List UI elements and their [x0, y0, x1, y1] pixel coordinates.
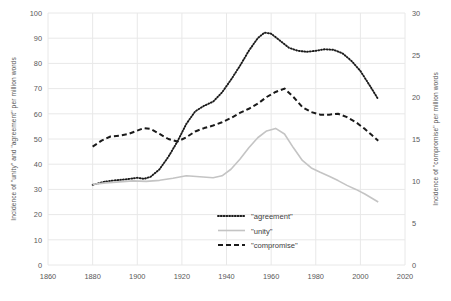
y-axis-left-tick-label: 40 [34, 160, 42, 169]
y-axis-left-tick-label: 30 [34, 185, 42, 194]
y-axis-left-tick-label: 70 [34, 84, 42, 93]
y-axis-left-tick-label: 80 [34, 59, 42, 68]
chart-legend: "agreement""unity""compromise" [218, 212, 298, 250]
x-axis-tick-label: 2000 [352, 272, 368, 281]
series-line [93, 33, 379, 185]
x-axis-tick-label: 1860 [40, 272, 56, 281]
y-axis-right-ticks: 051015202530 [412, 9, 420, 270]
legend-label: "unity" [251, 227, 273, 236]
x-axis-tick-label: 1880 [84, 272, 100, 281]
y-axis-left-tick-label: 60 [34, 110, 42, 119]
x-axis-tick-label: 1920 [174, 272, 190, 281]
y-axis-right-tick-label: 25 [412, 51, 420, 60]
y-axis-left-tick-label: 100 [30, 9, 42, 18]
y-axis-right-tick-label: 15 [412, 135, 420, 144]
series-lines [93, 33, 379, 202]
y-axis-left-tick-label: 20 [34, 210, 42, 219]
chart-container: 0102030405060708090100 051015202530 1860… [0, 0, 451, 301]
y-axis-right-tick-label: 30 [412, 9, 420, 18]
y-axis-right-title: Incidence of "compromise" per million wo… [432, 72, 440, 206]
y-axis-right-tick-label: 5 [412, 219, 416, 228]
line-chart: 0102030405060708090100 051015202530 1860… [0, 0, 451, 301]
y-axis-right-tick-label: 10 [412, 177, 420, 186]
y-axis-left-title: Incidence of "unity" and "agreement" per… [10, 57, 18, 221]
x-axis-tick-label: 1940 [218, 272, 234, 281]
y-axis-left-tick-label: 90 [34, 34, 42, 43]
series-line [93, 89, 379, 147]
y-axis-left-tick-label: 50 [34, 135, 42, 144]
y-axis-left-tick-label: 10 [34, 236, 42, 245]
x-axis-tick-label: 1980 [308, 272, 324, 281]
legend-label: "compromise" [251, 241, 298, 250]
y-axis-right-tick-label: 20 [412, 93, 420, 102]
y-axis-right-tick-label: 0 [412, 261, 416, 270]
x-axis-ticks: 186018801900192019401960198020002020 [40, 272, 413, 281]
y-axis-left-ticks: 0102030405060708090100 [30, 9, 42, 270]
x-axis-tick-label: 1960 [263, 272, 279, 281]
x-axis-tick-label: 2020 [397, 272, 413, 281]
y-axis-left-tick-label: 0 [38, 261, 42, 270]
grid-lines [48, 13, 405, 265]
legend-label: "agreement" [251, 212, 293, 221]
x-axis-tick-label: 1900 [129, 272, 145, 281]
